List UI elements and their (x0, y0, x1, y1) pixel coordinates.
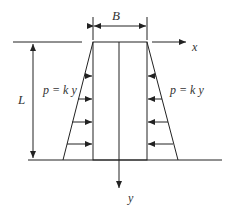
width-arrowhead-left-icon (94, 23, 101, 29)
left-load-label: p = k y (42, 83, 77, 97)
length-label: L (17, 92, 25, 107)
y-axis-label: y (127, 191, 134, 205)
width-label: B (112, 8, 120, 23)
left-load-envelope (63, 42, 93, 160)
x-axis-label: x (191, 40, 198, 54)
length-arrowhead-bottom-icon (30, 151, 36, 158)
pile-lateral-load-diagram: B x L p = k y p = k y y (0, 0, 234, 224)
right-load-label: p = k y (169, 83, 204, 97)
right-load-envelope (147, 42, 178, 160)
pile-body (93, 42, 147, 160)
